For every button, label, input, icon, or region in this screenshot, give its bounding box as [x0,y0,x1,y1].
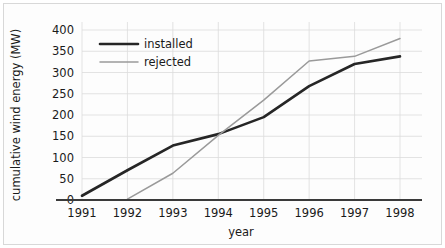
chart-figure: 050100150200250300350400 199119921993199… [0,0,445,248]
x-tick-label: 1991 [67,206,96,220]
legend-label-installed: installed [144,37,193,51]
x-tick-label: 1993 [158,206,187,220]
x-tick-label: 1997 [340,206,369,220]
x-tick-label: 1996 [295,206,324,220]
y-axis-tick-labels: 050100150200250300350400 [52,23,74,207]
y-tick-label: 300 [52,66,74,80]
y-tick-label: 50 [59,172,74,186]
y-tick-label: 400 [52,23,74,37]
x-axis-tick-labels: 19911992199319941995199619971998 [67,206,414,220]
y-tick-label: 250 [52,87,74,101]
x-gridlines [82,22,400,200]
y-tick-label: 350 [52,44,74,58]
y-axis-title: cumulative wind energy (MW) [9,29,23,201]
x-axis-title: year [228,225,254,239]
y-gridlines [82,30,422,200]
series-line-installed [82,56,400,195]
chart-legend: installedrejected [100,37,193,69]
legend-label-rejected: rejected [144,55,191,69]
y-tick-label: 150 [52,129,74,143]
x-tick-label: 1995 [249,206,278,220]
y-tick-label: 200 [52,108,74,122]
x-tick-label: 1998 [385,206,414,220]
x-tick-label: 1992 [113,206,142,220]
y-tick-label: 100 [52,151,74,165]
x-tick-label: 1994 [204,206,233,220]
line-chart: 050100150200250300350400 199119921993199… [0,0,445,248]
